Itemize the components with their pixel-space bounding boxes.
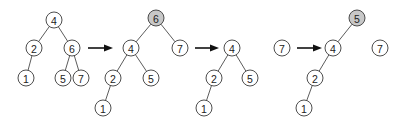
tree-node-4: 4 (46, 12, 62, 28)
tree-edge (74, 56, 78, 71)
tree-edge (319, 55, 329, 71)
tree-edge (39, 27, 50, 42)
node-label: 2 (211, 73, 217, 85)
node-label: 4 (51, 15, 57, 27)
tree-node-1: 1 (18, 70, 34, 86)
tree-diagram: 4261576472514251754217 (0, 0, 408, 124)
tree-node-1: 1 (196, 100, 212, 116)
tree-node-2: 2 (206, 70, 222, 86)
node-label: 7 (377, 43, 383, 55)
tree-edge (136, 24, 151, 42)
tree-node-7: 7 (372, 40, 388, 56)
tree-node-5: 5 (143, 70, 159, 86)
tree-node-7: 7 (73, 70, 89, 86)
node-label: 7 (177, 43, 183, 55)
tree-node-1: 1 (296, 100, 312, 116)
tree-node-6: 6 (64, 40, 80, 56)
tree-edge (65, 56, 69, 71)
tree-node-5: 5 (242, 70, 258, 86)
node-label: 1 (23, 73, 29, 85)
nodes-layer: 4261576472514251754217 (18, 10, 388, 116)
tree-node-4: 4 (325, 40, 341, 56)
tree-node-7: 7 (274, 40, 290, 56)
node-label: 5 (148, 73, 154, 85)
right-arrow-icon (297, 44, 322, 51)
node-label: 2 (312, 73, 318, 85)
tree-node-7: 7 (172, 40, 188, 56)
tree-edge (161, 24, 175, 42)
node-label: 4 (229, 43, 235, 55)
edges-layer (28, 24, 352, 100)
node-label: 5 (247, 73, 253, 85)
tree-edge (338, 24, 352, 42)
node-label: 2 (31, 43, 37, 55)
tree-4: 54217 (296, 10, 388, 116)
tree-node-5: 5 (55, 70, 71, 86)
tree-edge (236, 55, 246, 71)
node-label: 1 (100, 103, 106, 115)
node-label: 7 (78, 73, 84, 85)
node-label: 2 (110, 73, 116, 85)
tree-edge (58, 27, 67, 42)
tree-edge (218, 55, 228, 71)
tree-edge (117, 55, 127, 71)
tree-edge (307, 86, 312, 101)
tree-node-2: 2 (105, 70, 121, 86)
node-label: 1 (201, 103, 207, 115)
tree-node-1: 1 (95, 100, 111, 116)
tree-edge (135, 55, 146, 72)
node-label: 4 (330, 43, 336, 55)
tree-node-4: 4 (224, 40, 240, 56)
node-label: 7 (279, 43, 285, 55)
tree-node-2: 2 (26, 40, 42, 56)
node-label: 1 (301, 103, 307, 115)
tree-node-2: 2 (307, 70, 323, 86)
node-label: 6 (69, 43, 75, 55)
tree-edge (28, 56, 32, 71)
tree-node-5: 5 (349, 10, 365, 26)
right-arrow-icon (195, 44, 219, 51)
node-label: 5 (354, 13, 360, 25)
right-arrow-icon (88, 44, 113, 51)
tree-1: 426157 (18, 12, 89, 86)
node-label: 6 (153, 13, 159, 25)
node-label: 4 (128, 43, 134, 55)
tree-edge (207, 86, 212, 101)
node-label: 5 (60, 73, 66, 85)
tree-edge (106, 86, 111, 101)
tree-node-6: 6 (148, 10, 164, 26)
tree-node-4: 4 (123, 40, 139, 56)
